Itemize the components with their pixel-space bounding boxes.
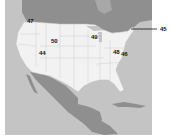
map-container: 47 50 44 49 48 46 45	[0, 0, 172, 137]
map-label-45: 45	[160, 26, 167, 32]
map-label-48: 48	[113, 49, 120, 55]
map-label-49: 49	[91, 34, 98, 40]
map-label-44: 44	[39, 50, 46, 56]
north-america-map	[0, 0, 172, 137]
map-label-46: 46	[121, 51, 128, 57]
map-label-50: 50	[51, 38, 58, 44]
map-label-47: 47	[27, 18, 34, 24]
